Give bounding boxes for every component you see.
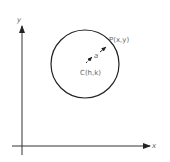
radius-line-lower bbox=[86, 57, 92, 63]
y-axis-label: y bbox=[16, 16, 22, 24]
radius-label: a bbox=[94, 52, 98, 60]
x-axis-label: x bbox=[151, 142, 157, 150]
circle-diagram: y x a P(x,y) C(h,k) bbox=[0, 0, 170, 162]
point-label: P(x,y) bbox=[109, 36, 129, 44]
center-label: C(h,k) bbox=[80, 69, 101, 77]
radius-line-upper bbox=[100, 47, 106, 52]
